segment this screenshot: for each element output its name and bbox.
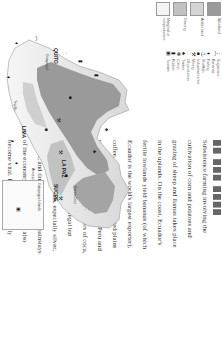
mining-icon: ⚒ <box>58 150 63 154</box>
legend-label: Industrial center <box>197 59 201 85</box>
legend-label: Rubber <box>172 59 176 71</box>
timber-icon: ♣ <box>104 128 109 131</box>
legend-item-mining: ⚒Mining <box>191 50 196 85</box>
bananas-icon: ⌒ <box>211 50 216 57</box>
industrial-center-icon: ■ <box>68 96 73 99</box>
industrial-center-icon: ■ <box>196 50 201 57</box>
sugarcane-icon: ↕ <box>216 50 221 57</box>
legend-label: Sugarcane <box>217 59 221 76</box>
mining-icon: ⚒ <box>56 118 61 122</box>
galapagos-inset: Galapagos Islands ▣ <box>2 180 44 230</box>
industrial-center-icon: ■ <box>44 128 49 131</box>
legend-label: Grazing <box>183 18 187 44</box>
legend-label: Oil production <box>187 59 191 81</box>
legend-label: Marginal or nonproductive <box>162 18 170 44</box>
text-line: Subsistence farming involving the <box>198 140 213 343</box>
legend-item-shellfish: ⚓Shellfish <box>201 50 206 85</box>
land-use-map: QUITO LIMA LA PAZ SUCRE Guayaquil Trujil… <box>0 0 159 230</box>
legend-item-woodland: Woodland <box>206 2 221 46</box>
oil-production-icon: ⎕ <box>62 52 67 55</box>
legend-item-bananas: ⌒Bananas <box>211 50 216 85</box>
grazing-swatch <box>173 2 187 16</box>
legend-item-grazing: Grazing <box>172 2 187 46</box>
timber-icon: ♣ <box>92 150 97 153</box>
tourism-icon: ▣ <box>166 50 171 57</box>
legend-item-tourism: ▣Tourism <box>166 50 171 85</box>
woodland-swatch <box>207 2 221 16</box>
mining-icon: ⚒ <box>58 196 63 200</box>
legend-label: Arable land <box>200 18 204 44</box>
shellfish-icon: ⚓ <box>201 50 206 57</box>
fishing-icon: ♦ <box>14 162 19 165</box>
legend-item-industrial-center: ■Industrial center <box>196 50 201 85</box>
city-label-quito: QUITO <box>53 48 59 64</box>
legend-label: Cotton <box>177 59 181 70</box>
timber-icon: ♣ <box>181 50 186 57</box>
legend-label: Tourism <box>167 59 171 72</box>
legend-label: Fishing <box>207 59 211 71</box>
book-page: Woodland Arable land Grazing Marginal or… <box>0 0 221 343</box>
legend-label: Bananas <box>212 59 216 73</box>
section-heading-cutoff: ██ ███ ████ <box>213 140 221 343</box>
fishing-icon: ♦ <box>10 140 15 143</box>
town-label-trujillo: Trujillo <box>13 100 17 110</box>
legend-label: Shellfish <box>202 59 206 73</box>
land-use-legend: Woodland Arable land Grazing Marginal or… <box>153 2 221 46</box>
map-legend: Woodland Arable land Grazing Marginal or… <box>161 2 221 122</box>
legend-item-cotton: ❁Cotton <box>176 50 181 85</box>
fishing-icon: ♦ <box>206 50 211 57</box>
symbol-legend: ↕Sugarcane ⌒Bananas ♦Fishing ⚓Shellfish … <box>166 50 221 85</box>
text-line: cultivation of corn and potatoes and <box>183 140 198 343</box>
arable-swatch <box>190 2 204 16</box>
industrial-center-icon: ■ <box>64 174 69 177</box>
legend-item-fishing: ♦Fishing <box>206 50 211 85</box>
text-line: grazing of sheep and llamas takes place <box>168 140 183 343</box>
town-label-santa-cruz: Santa Cruz <box>73 186 77 204</box>
oil-production-icon: ⎕ <box>84 208 89 211</box>
fishing-icon: ♦ <box>6 76 11 79</box>
bananas-icon: ⌒ <box>32 36 37 41</box>
legend-label: Mining <box>192 59 196 70</box>
fishing-icon: ♦ <box>14 42 19 45</box>
rubber-icon: ▮ <box>94 74 99 77</box>
mining-icon: ⚒ <box>191 50 196 57</box>
oil-production-icon: ⎕ <box>186 50 191 57</box>
legend-item-oil-production: ⎕Oil production <box>186 50 191 85</box>
tourism-icon: ▣ <box>16 207 21 212</box>
legend-item-sugarcane: ↕Sugarcane <box>216 50 221 85</box>
rubber-icon: ▮ <box>78 60 83 63</box>
city-label-lima: LIMA <box>21 126 27 138</box>
rubber-icon: ▮ <box>171 50 176 57</box>
cotton-icon: ❁ <box>176 50 181 57</box>
legend-item-timber: ♣Timber <box>181 50 186 85</box>
legend-item-arable: Arable land <box>189 2 204 46</box>
inset-label: Galapagos Islands <box>37 183 41 211</box>
legend-label: Woodland <box>217 18 221 44</box>
town-label-guayaquil: Guayaquil <box>45 54 49 70</box>
legend-label: Timber <box>182 59 186 70</box>
legend-item-rubber: ▮Rubber <box>171 50 176 85</box>
